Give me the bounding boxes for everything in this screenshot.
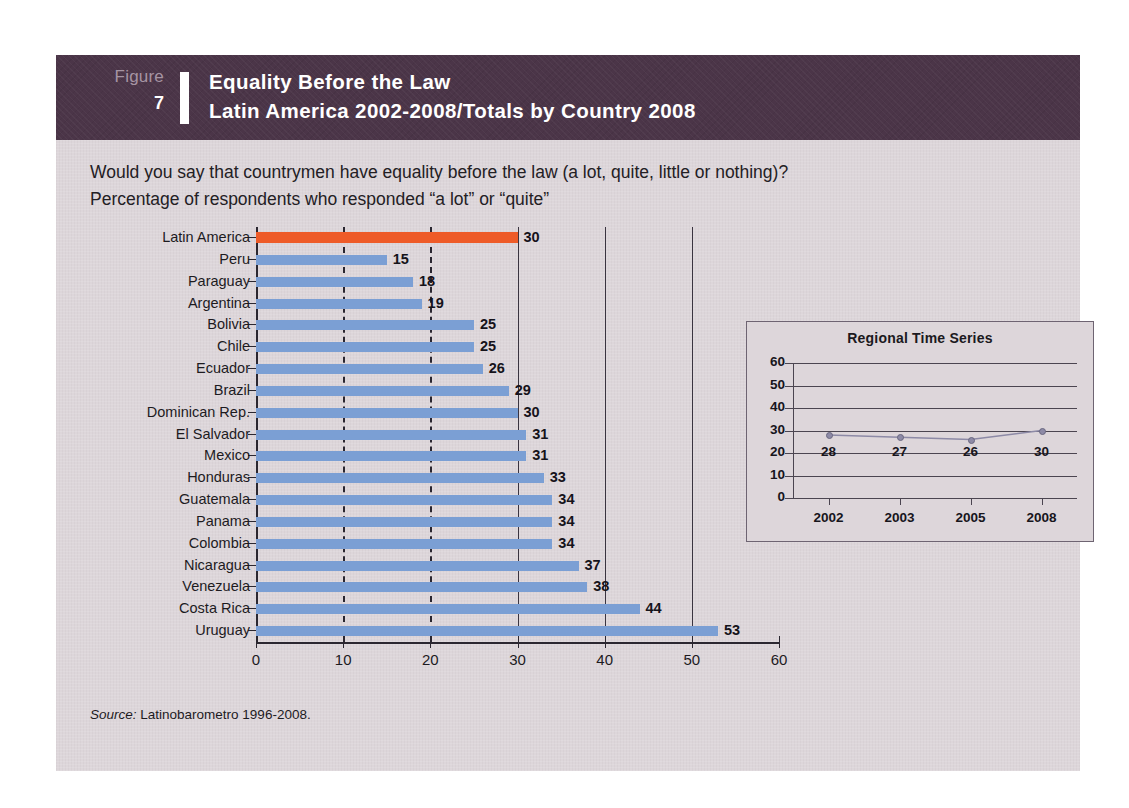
inset-x-tick (900, 498, 901, 505)
category-label: Chile (90, 336, 250, 357)
source-text: Latinobarometro 1996-2008. (140, 707, 310, 722)
category-label: Nicaragua (90, 555, 250, 576)
category-label: Costa Rica (90, 598, 250, 619)
x-axis-tick (256, 636, 257, 648)
bar-value-label: 44 (646, 598, 662, 619)
header-divider-bar (180, 72, 189, 124)
bar (256, 582, 587, 592)
bar-row: Ecuador26 (90, 358, 810, 379)
category-label: Paraguay (90, 271, 250, 292)
bar (256, 517, 552, 527)
bar (256, 604, 640, 614)
category-label: Guatemala (90, 489, 250, 510)
inset-data-point (826, 432, 833, 439)
x-axis-tick-label: 50 (672, 651, 712, 668)
inset-data-label: 27 (883, 444, 917, 459)
category-label: Venezuela (90, 576, 250, 597)
bar-value-label: 38 (593, 576, 609, 597)
inset-data-label: 26 (954, 444, 988, 459)
x-axis-tick-label: 40 (585, 651, 625, 668)
bar-value-label: 31 (532, 424, 548, 445)
x-axis-tick (779, 636, 780, 648)
figure-header-band: Figure 7 Equality Before the Law Latin A… (56, 55, 1080, 140)
figure-title-line-2: Latin America 2002-2008/Totals by Countr… (209, 96, 696, 125)
inset-x-tick (971, 498, 972, 505)
bar (256, 561, 579, 571)
source-prefix: Source: (90, 707, 137, 722)
bar-value-label: 26 (489, 358, 505, 379)
bar (256, 430, 526, 440)
bar (256, 473, 544, 483)
inset-data-point (968, 437, 975, 444)
inset-x-tick-label: 2003 (872, 510, 928, 525)
x-axis-tick (343, 636, 344, 648)
bar-row: Bolivia25 (90, 314, 810, 335)
category-label: Panama (90, 511, 250, 532)
bar (256, 386, 509, 396)
bar (256, 342, 474, 352)
x-axis-tick-label: 60 (759, 651, 799, 668)
bar-value-label: 53 (724, 620, 740, 641)
inset-x-tick (829, 498, 830, 505)
category-label: Ecuador (90, 358, 250, 379)
x-axis-tick-label: 20 (410, 651, 450, 668)
bar (256, 539, 552, 549)
x-axis-tick (518, 636, 519, 648)
bar (256, 451, 526, 461)
bar-row: Guatemala34 (90, 489, 810, 510)
category-label: Mexico (90, 445, 250, 466)
bar-row: Venezuela38 (90, 576, 810, 597)
bar-row: Costa Rica44 (90, 598, 810, 619)
bar-row: Mexico31 (90, 445, 810, 466)
bar-row: Nicaragua37 (90, 555, 810, 576)
figure-title-line-1: Equality Before the Law (209, 67, 696, 96)
bar-row: Paraguay18 (90, 271, 810, 292)
bar (256, 232, 518, 243)
category-label: Colombia (90, 533, 250, 554)
bar-value-label: 34 (558, 533, 574, 554)
bar-value-label: 25 (480, 314, 496, 335)
x-axis-tick (692, 636, 693, 648)
category-label: Brazil (90, 380, 250, 401)
category-label: El Salvador (90, 424, 250, 445)
inset-data-label: 30 (1025, 444, 1059, 459)
bar-row: Panama34 (90, 511, 810, 532)
bar-row: Honduras33 (90, 467, 810, 488)
category-label: Bolivia (90, 314, 250, 335)
bar-value-label: 33 (550, 467, 566, 488)
inset-x-tick-label: 2002 (801, 510, 857, 525)
question-line-2: Percentage of respondents who responded … (90, 186, 788, 213)
inset-x-tick (1042, 498, 1043, 505)
bar-row: Chile25 (90, 336, 810, 357)
inset-data-point (1039, 428, 1046, 435)
bar (256, 299, 422, 309)
bar-value-label: 18 (419, 271, 435, 292)
bar-row: El Salvador31 (90, 424, 810, 445)
bar (256, 277, 413, 287)
x-axis-tick-label: 10 (323, 651, 363, 668)
bar-value-label: 25 (480, 336, 496, 357)
bar-row: Argentina19 (90, 293, 810, 314)
bar-value-label: 19 (428, 293, 444, 314)
bar-row: Latin America30 (90, 227, 810, 248)
bar (256, 255, 387, 265)
bar-row: Colombia34 (90, 533, 810, 554)
x-axis-tick-label: 30 (498, 651, 538, 668)
regional-time-series-chart: Regional Time Series 6050403020100200228… (746, 321, 1094, 542)
bar-chart: Latin America30Peru15Paraguay18Argentina… (90, 227, 810, 679)
bar (256, 495, 552, 505)
figure-number: 7 (76, 93, 164, 114)
bar-value-label: 30 (524, 227, 540, 248)
inset-data-point (897, 434, 904, 441)
figure-title: Equality Before the Law Latin America 20… (209, 67, 696, 125)
bar (256, 364, 483, 374)
category-label: Uruguay (90, 620, 250, 641)
bar-row: Uruguay53 (90, 620, 810, 641)
screenshot-page: Figure 7 Equality Before the Law Latin A… (0, 0, 1129, 808)
bar-value-label: 31 (532, 445, 548, 466)
bar-row: Brazil29 (90, 380, 810, 401)
question-line-1: Would you say that countrymen have equal… (90, 159, 788, 186)
bar-value-label: 30 (524, 402, 540, 423)
x-axis-tick-label: 0 (236, 651, 276, 668)
bar-value-label: 37 (585, 555, 601, 576)
